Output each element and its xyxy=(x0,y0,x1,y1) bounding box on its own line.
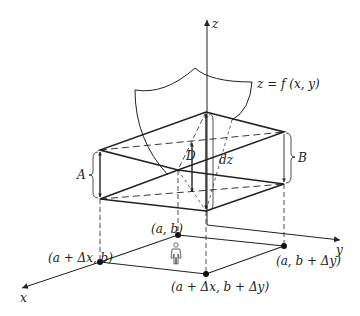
x-axis-label: x xyxy=(20,292,27,304)
z-axis-label: z xyxy=(212,18,218,30)
ground-region xyxy=(100,235,284,274)
y-axis xyxy=(207,225,340,240)
diagram-canvas: z x y z = f (x, y) A B D dz (a, b) (a + … xyxy=(0,0,360,316)
x-axis xyxy=(22,262,100,288)
person-icon xyxy=(171,243,181,264)
point-label-a-dx-b-dy: (a + Δx, b + Δy) xyxy=(171,281,269,293)
point-label-a-dx-b: (a + Δx, b) xyxy=(48,252,113,264)
point-label-ab: (a, b) xyxy=(151,223,183,235)
label-B: B xyxy=(298,152,307,164)
surface-label: z = f (x, y) xyxy=(257,78,320,90)
point-a-dx-b-dy xyxy=(203,271,209,277)
label-A: A xyxy=(77,169,86,181)
label-D: D xyxy=(186,150,196,162)
point-a-b-dy xyxy=(281,243,287,249)
point-label-a-b-dy: (a, b + Δy) xyxy=(276,255,341,267)
label-dz: dz xyxy=(219,154,233,166)
